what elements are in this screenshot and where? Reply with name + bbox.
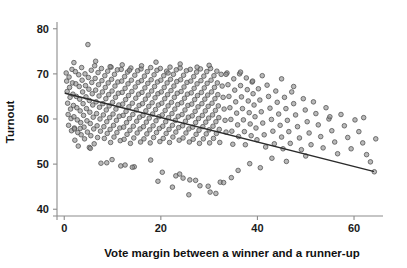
data-point xyxy=(104,160,109,165)
data-point xyxy=(203,109,208,114)
data-point xyxy=(266,94,271,99)
data-point xyxy=(215,69,220,74)
chart-canvas: 02040604050607080 Vote margin between a … xyxy=(0,0,407,268)
data-point xyxy=(316,123,321,128)
data-point xyxy=(156,179,161,184)
data-point xyxy=(167,140,172,145)
data-point xyxy=(179,89,184,94)
data-point xyxy=(127,116,132,121)
data-point xyxy=(78,120,83,125)
data-point xyxy=(167,127,172,132)
data-point xyxy=(205,81,210,86)
data-point xyxy=(368,160,373,165)
data-point xyxy=(119,67,124,72)
data-point xyxy=(129,78,134,83)
data-point xyxy=(349,146,354,151)
data-point xyxy=(251,91,256,96)
data-point xyxy=(324,105,329,110)
data-point xyxy=(202,86,207,91)
data-point xyxy=(98,129,103,134)
data-point xyxy=(147,116,152,121)
data-point xyxy=(229,117,234,122)
data-point xyxy=(248,122,253,127)
data-point xyxy=(197,128,202,133)
data-point xyxy=(309,142,314,147)
data-point xyxy=(151,135,156,140)
data-point xyxy=(184,131,189,136)
data-point xyxy=(96,82,101,87)
data-point xyxy=(163,119,168,124)
data-point xyxy=(204,132,209,137)
data-point xyxy=(97,94,102,99)
data-point xyxy=(105,69,110,74)
data-point xyxy=(270,156,275,161)
data-point xyxy=(254,126,259,131)
data-point xyxy=(88,121,93,126)
data-point xyxy=(149,77,154,82)
data-point xyxy=(162,85,167,90)
data-point xyxy=(154,119,159,124)
data-point xyxy=(204,69,209,74)
data-point xyxy=(303,108,308,113)
data-point xyxy=(195,65,200,70)
data-point xyxy=(145,132,150,137)
data-point xyxy=(219,72,224,77)
data-point xyxy=(207,63,212,68)
data-point xyxy=(180,112,185,117)
data-point xyxy=(78,109,83,114)
data-point xyxy=(205,93,210,98)
data-point xyxy=(118,164,123,169)
data-point xyxy=(328,114,333,119)
data-point xyxy=(188,79,193,84)
data-point xyxy=(284,159,289,164)
data-point xyxy=(130,101,135,106)
data-point xyxy=(305,119,310,124)
data-point xyxy=(154,130,159,135)
data-point xyxy=(213,96,218,101)
data-point xyxy=(191,74,196,79)
data-point xyxy=(259,109,264,114)
data-point xyxy=(115,130,120,135)
data-point xyxy=(216,92,221,97)
data-point xyxy=(364,152,369,157)
data-points-layer xyxy=(64,42,378,197)
data-point xyxy=(231,77,236,82)
data-point xyxy=(273,89,278,94)
data-point xyxy=(83,83,88,88)
data-point xyxy=(123,86,128,91)
data-point xyxy=(229,175,234,180)
data-point xyxy=(65,101,70,106)
data-point xyxy=(232,88,237,93)
data-point xyxy=(160,124,165,129)
data-point xyxy=(149,89,154,94)
data-point xyxy=(193,109,198,114)
data-point xyxy=(373,137,378,142)
data-point xyxy=(114,107,119,112)
data-point xyxy=(235,123,240,128)
data-point xyxy=(216,115,221,120)
data-point xyxy=(108,140,113,145)
data-point xyxy=(265,83,270,88)
data-point xyxy=(67,75,72,80)
data-point xyxy=(199,78,204,83)
y-tick-label: 40 xyxy=(37,203,49,215)
data-point xyxy=(256,86,261,91)
data-point xyxy=(227,94,232,99)
data-point xyxy=(195,93,200,98)
data-point xyxy=(73,138,78,143)
data-point xyxy=(126,93,131,98)
data-point xyxy=(152,72,157,77)
data-point xyxy=(66,123,71,128)
data-point xyxy=(247,110,252,115)
data-point xyxy=(299,147,304,152)
data-point xyxy=(250,79,255,84)
data-point xyxy=(150,100,155,105)
data-point xyxy=(139,78,144,83)
data-point xyxy=(158,66,163,71)
data-point xyxy=(211,136,216,141)
data-point xyxy=(207,141,212,146)
data-point xyxy=(282,95,287,100)
data-point xyxy=(100,78,105,83)
data-point xyxy=(194,132,199,137)
y-axis-title: Turnout xyxy=(4,101,16,144)
